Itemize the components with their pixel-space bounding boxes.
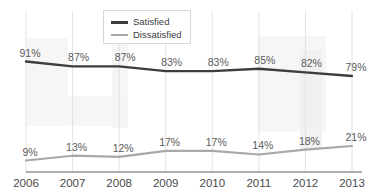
legend-item-satisfied: Satisfied xyxy=(111,16,169,28)
data-label-satisfied-2008: 87% xyxy=(115,51,136,63)
x-tick-2011: 2011 xyxy=(246,177,271,189)
legend-item-dissatisfied: Dissatisfied xyxy=(111,29,182,41)
data-label-dissatisfied-2010: 17% xyxy=(206,136,227,148)
chart-legend: Satisfied Dissatisfied xyxy=(103,10,191,44)
legend-label-satisfied: Satisfied xyxy=(133,16,169,28)
data-label-dissatisfied-2009: 17% xyxy=(159,136,180,148)
data-label-satisfied-2011: 85% xyxy=(254,54,275,66)
data-label-dissatisfied-2007: 13% xyxy=(66,141,87,153)
x-tick-2007: 2007 xyxy=(60,177,86,189)
legend-swatch-dissatisfied xyxy=(111,34,128,36)
data-label-dissatisfied-2006: 9% xyxy=(22,146,37,158)
x-tick-2008: 2008 xyxy=(106,177,132,189)
data-label-satisfied-2007: 87% xyxy=(68,51,89,63)
x-tick-2006: 2006 xyxy=(13,177,39,189)
data-label-satisfied-2009: 83% xyxy=(161,56,182,68)
x-tick-2012: 2012 xyxy=(293,177,319,189)
data-label-satisfied-2012: 82% xyxy=(301,57,322,69)
data-label-dissatisfied-2008: 12% xyxy=(113,142,134,154)
legend-swatch-satisfied xyxy=(111,21,128,24)
data-label-satisfied-2006: 91% xyxy=(19,47,40,59)
data-label-dissatisfied-2011: 14% xyxy=(252,139,273,151)
data-label-dissatisfied-2013: 21% xyxy=(345,131,366,143)
chart-plot-area xyxy=(0,0,383,196)
x-tick-2009: 2009 xyxy=(153,177,179,189)
line-chart: 91%87%87%83%83%85%82%79%9%13%12%17%17%14… xyxy=(0,0,383,196)
legend-label-dissatisfied: Dissatisfied xyxy=(133,29,182,41)
data-label-satisfied-2010: 83% xyxy=(208,56,229,68)
x-tick-2013: 2013 xyxy=(339,177,365,189)
data-label-satisfied-2013: 79% xyxy=(345,61,366,73)
data-label-dissatisfied-2012: 18% xyxy=(299,135,320,147)
x-tick-2010: 2010 xyxy=(199,177,225,189)
